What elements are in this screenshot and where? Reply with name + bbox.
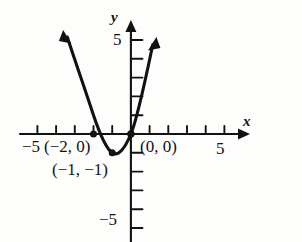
x-tick-label-5: 5: [216, 140, 225, 157]
x-axis-arrowhead: [238, 129, 250, 140]
x-tick-label-minus-5: −5: [22, 138, 40, 155]
point-root-left: [90, 131, 97, 138]
x-axis-label: x: [243, 114, 251, 129]
point-label-origin: (0, 0): [140, 138, 177, 155]
y-axis: [125, 20, 142, 242]
y-axis-arrowhead: [125, 20, 136, 32]
point-label-root-left: (−2, 0): [44, 138, 90, 155]
point-vertex: [109, 149, 116, 156]
graph-figure: y x 5 −5 −5 5 (−2, 0) (0, 0) (−1, −1): [0, 0, 302, 242]
curve-arrowhead-right: [148, 37, 160, 51]
curve-arrowhead-left: [59, 30, 71, 44]
point-label-vertex: (−1, −1): [52, 161, 108, 178]
y-tick-label-5: 5: [113, 31, 122, 48]
y-axis-label: y: [111, 10, 118, 25]
coordinate-plane-svg: [0, 0, 302, 242]
y-tick-label-minus-5: −5: [99, 211, 117, 228]
point-origin: [127, 130, 134, 137]
